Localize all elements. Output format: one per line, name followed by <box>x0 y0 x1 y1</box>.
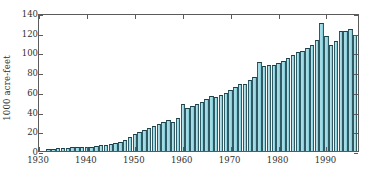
bar <box>147 128 151 151</box>
y-tick-mark <box>39 35 43 36</box>
bar <box>348 29 352 151</box>
y-tick-mark <box>354 54 358 55</box>
bar <box>296 52 300 151</box>
bar <box>334 41 338 151</box>
bar <box>152 126 156 151</box>
bar <box>113 143 117 151</box>
bar <box>238 84 242 151</box>
y-tick-mark <box>354 114 358 115</box>
bar <box>319 23 323 151</box>
bar <box>190 106 194 151</box>
x-tick-label: 1940 <box>75 155 97 165</box>
bar <box>243 84 247 151</box>
bar <box>248 80 252 151</box>
bar <box>75 147 79 151</box>
x-tick-mark <box>87 147 88 151</box>
bar <box>291 55 295 151</box>
bar <box>118 142 122 151</box>
x-tick-mark <box>183 147 184 151</box>
bar <box>185 108 189 151</box>
bar <box>104 145 108 151</box>
bar <box>166 120 170 151</box>
bar <box>99 145 103 151</box>
x-tick-mark <box>135 147 136 151</box>
y-tick-label: 20 <box>27 127 38 137</box>
x-tick-mark <box>231 15 232 19</box>
y-tick-label: 140 <box>22 9 38 19</box>
x-tick-mark <box>326 147 327 151</box>
bar <box>324 36 328 151</box>
bar <box>123 140 127 151</box>
y-tick-label: 120 <box>22 29 38 39</box>
bar <box>286 58 290 151</box>
bar <box>204 99 208 151</box>
bar-series <box>39 15 358 151</box>
y-tick-label: 40 <box>27 108 38 118</box>
y-tick-mark <box>354 133 358 134</box>
bar <box>171 122 175 151</box>
y-tick-mark <box>39 153 43 154</box>
x-tick-label: 1980 <box>267 155 289 165</box>
y-tick-mark <box>354 35 358 36</box>
bar <box>142 130 146 151</box>
bar <box>257 62 261 151</box>
bar <box>176 118 180 152</box>
bar <box>89 147 93 151</box>
bar <box>224 93 228 151</box>
x-tick-mark <box>279 15 280 19</box>
bar <box>315 40 319 151</box>
x-tick-mark <box>39 15 40 19</box>
x-tick-label: 1930 <box>27 155 49 165</box>
bar <box>80 147 84 151</box>
y-tick-mark <box>354 94 358 95</box>
bar <box>66 148 70 151</box>
x-tick-mark <box>231 147 232 151</box>
y-tick-label: 80 <box>27 68 38 78</box>
bar <box>329 45 333 151</box>
bar <box>233 87 237 151</box>
bar <box>181 104 185 151</box>
y-tick-mark <box>354 74 358 75</box>
bar <box>56 148 60 151</box>
x-axis-tick-labels: 1930194019501960197019801990 <box>0 155 366 169</box>
bar <box>276 63 280 151</box>
bar <box>281 61 285 151</box>
bar <box>137 132 141 151</box>
x-tick-mark <box>39 147 40 151</box>
x-tick-label: 1990 <box>315 155 337 165</box>
y-tick-mark <box>39 94 43 95</box>
bar <box>310 45 314 151</box>
bar <box>343 31 347 151</box>
x-tick-label: 1970 <box>219 155 241 165</box>
y-tick-mark <box>39 54 43 55</box>
bar <box>305 48 309 152</box>
x-tick-mark <box>183 15 184 19</box>
bar <box>200 102 204 151</box>
bar <box>61 148 65 151</box>
bar <box>128 137 132 151</box>
bar <box>252 77 256 151</box>
x-tick-mark <box>87 15 88 19</box>
bar <box>195 104 199 151</box>
y-tick-label: 100 <box>22 48 38 58</box>
chart-figure: 1000 acre-feet 020406080100120140 193019… <box>0 0 366 176</box>
x-tick-label: 1950 <box>123 155 145 165</box>
bar <box>300 51 304 151</box>
bar <box>161 122 165 151</box>
y-tick-label: 60 <box>27 88 38 98</box>
bar <box>228 90 232 151</box>
y-tick-mark <box>354 15 358 16</box>
bar <box>157 124 161 151</box>
bar <box>214 97 218 151</box>
y-axis-tick-labels: 020406080100120140 <box>12 0 38 176</box>
y-tick-mark <box>39 74 43 75</box>
bar <box>46 149 50 151</box>
x-tick-label: 1960 <box>171 155 193 165</box>
y-tick-mark <box>39 114 43 115</box>
bar <box>94 146 98 151</box>
bar <box>272 65 276 151</box>
plot-area <box>38 14 359 152</box>
bar <box>209 96 213 151</box>
y-tick-mark <box>39 133 43 134</box>
x-tick-mark <box>135 15 136 19</box>
